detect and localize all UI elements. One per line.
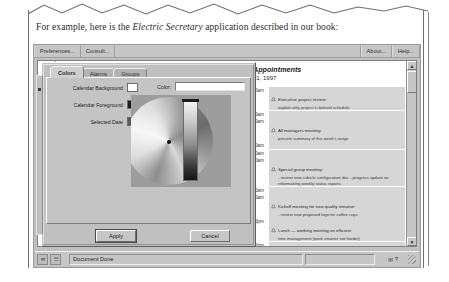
menu-consult[interactable]: Consult... xyxy=(81,46,116,57)
appointment-text: All managers meeting: xyxy=(278,128,322,133)
appointment-sub: - review new proposed logo for coffee cu… xyxy=(271,212,403,217)
menu-spacer xyxy=(115,46,360,57)
field-label: Calendar Background xyxy=(51,85,127,91)
status-left-icons: ✉ ☷ xyxy=(37,254,67,265)
appointment-row[interactable]: 10:30am Special group meeting: - review … xyxy=(238,157,405,186)
status-bar: ✉ ☷ Document Done ✉ ? xyxy=(35,251,419,266)
appointment-row[interactable]: 10:00am xyxy=(238,150,405,157)
scrollbar-thumb[interactable] xyxy=(407,71,417,93)
progress-indicator xyxy=(305,254,375,265)
appointment-sub: present summary of this week's range xyxy=(271,136,403,141)
appointments-date: 21, 1997 xyxy=(253,75,403,81)
appointment-body[interactable] xyxy=(269,150,405,157)
menu-about[interactable]: About... xyxy=(361,46,392,57)
appointment-text: Kickoff meeting for new quality initiati… xyxy=(278,204,355,209)
appointment-text: Executive project review: xyxy=(278,97,327,102)
tab-page-colors: Calendar Background Calendar Foreground … xyxy=(46,77,251,224)
signal-icon[interactable]: ☷ xyxy=(50,254,61,265)
appointment-row[interactable]: 9:30am xyxy=(238,111,405,118)
appointments-title: Appointments xyxy=(253,65,403,74)
color-wheel[interactable] xyxy=(131,97,213,185)
apply-button[interactable]: Apply xyxy=(96,230,136,242)
alarm-bell-icon xyxy=(271,97,276,102)
alarm-bell-icon xyxy=(271,167,276,172)
dialog-strip-marker-icon xyxy=(38,88,41,91)
color-value-input[interactable] xyxy=(175,82,245,91)
scroll-down-icon[interactable]: ▼ xyxy=(407,237,417,246)
appointment-row[interactable]: 9:00am All managers meeting: present sum… xyxy=(238,118,405,141)
appointment-text: Special group meeting: xyxy=(278,167,323,172)
color-wheel-selector-icon[interactable] xyxy=(167,140,171,144)
caption-text-before: For example, here is the xyxy=(36,22,132,32)
torn-page-edge xyxy=(28,2,428,16)
appointment-body[interactable]: Special group meeting: - review new cubi… xyxy=(269,157,405,186)
field-calendar-foreground[interactable]: Calendar Foreground xyxy=(51,100,138,109)
scroll-up-icon[interactable]: ▲ xyxy=(407,61,417,70)
brightness-slider[interactable] xyxy=(183,101,198,181)
dialog-left-strip[interactable] xyxy=(36,75,43,235)
appointment-body[interactable]: Executive project review: explain why pr… xyxy=(269,87,405,110)
appointment-body[interactable] xyxy=(269,111,405,118)
caption-text-after: application described in our book: xyxy=(203,22,339,32)
page-border-right xyxy=(423,10,424,268)
color-swatch[interactable] xyxy=(127,83,138,92)
menu-bar: Preferences... Consult... About... Help.… xyxy=(34,45,420,58)
screenshot-root: For example, here is the Electric Secret… xyxy=(0,0,449,282)
page-border-left xyxy=(28,10,29,268)
appointment-body[interactable]: Lunch — working meeting on efficient tim… xyxy=(269,218,405,241)
appointment-body[interactable]: Kickoff meeting for new quality initiati… xyxy=(269,194,405,217)
page-caption: For example, here is the Electric Secret… xyxy=(36,22,416,32)
appointment-sub: - review new cubicle configuration doc -… xyxy=(271,175,403,186)
page-border-right-outer xyxy=(428,12,429,266)
appointment-row[interactable]: 9:30am xyxy=(238,142,405,149)
appointments-list: 9:00am Executive project review: explain… xyxy=(238,87,405,244)
appointments-header: Appointments 21, 1997 xyxy=(253,65,403,81)
appointment-row[interactable]: 11:00am xyxy=(238,187,405,194)
appointment-sub: time management (work smarter not harder… xyxy=(271,236,403,241)
appointment-body[interactable]: All managers meeting: present summary of… xyxy=(269,118,405,141)
menu-help[interactable]: Help... xyxy=(392,46,420,57)
alarm-bell-icon xyxy=(271,128,276,133)
field-selected-date[interactable]: Selected Date xyxy=(51,117,138,126)
appointment-body[interactable] xyxy=(269,187,405,194)
brightness-slider-knob[interactable] xyxy=(182,99,199,102)
mail-icon[interactable]: ✉ xyxy=(37,254,48,265)
field-label: Calendar Foreground xyxy=(51,102,127,108)
document-scrollbar[interactable]: ▲ ▼ xyxy=(406,61,416,246)
field-calendar-background[interactable]: Calendar Background xyxy=(51,83,138,92)
menu-preferences[interactable]: Preferences... xyxy=(34,46,81,57)
color-value-label: Color: xyxy=(157,84,171,90)
alarm-bell-icon xyxy=(271,204,276,209)
envelope-icon[interactable]: ✉ xyxy=(388,256,393,263)
field-label: Selected Date xyxy=(51,119,127,125)
appointment-body[interactable] xyxy=(269,242,405,247)
appointment-sub: explain why project is behind schedule xyxy=(271,105,403,110)
tab-colors[interactable]: Colors xyxy=(50,66,84,78)
status-message: Document Done xyxy=(69,254,303,265)
application-window: Preferences... Consult... About... Help.… xyxy=(33,44,421,268)
cancel-button[interactable]: Cancel xyxy=(190,230,230,242)
caption-app-name: Electric Secretary xyxy=(132,22,202,32)
color-wheel-panel[interactable] xyxy=(131,95,231,187)
appointment-row[interactable]: 12:00pm Lunch — working meeting on effic… xyxy=(238,218,405,241)
appointment-row[interactable]: 12:30pm xyxy=(238,242,405,247)
question-icon[interactable]: ? xyxy=(395,256,398,262)
status-right-icons: ✉ ? xyxy=(378,254,408,265)
appointment-row[interactable]: 11:30am Kickoff meeting for new quality … xyxy=(238,194,405,217)
resize-grip-icon[interactable] xyxy=(408,255,416,264)
preferences-dialog: Colors Alarms Groups Calendar Background… xyxy=(41,62,256,247)
appointment-row[interactable]: 9:00am Executive project review: explain… xyxy=(238,87,405,110)
appointment-text: Lunch — working meeting on efficient xyxy=(278,228,351,233)
alarm-bell-icon xyxy=(271,228,276,233)
appointment-body[interactable] xyxy=(269,142,405,149)
